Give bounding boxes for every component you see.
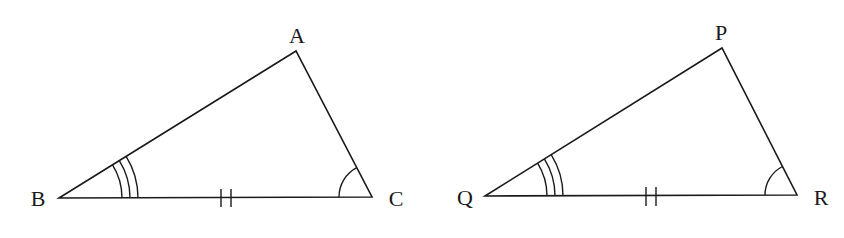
angle-q-arc-1	[538, 163, 547, 196]
angle-r-arc	[765, 167, 782, 196]
vertex-label-c: C	[389, 186, 404, 211]
angle-b-arc-2	[119, 161, 130, 198]
vertex-label-q: Q	[457, 185, 473, 210]
angle-q-arc-3	[551, 155, 563, 196]
angle-b-arc-3	[126, 156, 138, 197]
triangle-abc: ABC	[31, 23, 404, 211]
vertex-label-a: A	[289, 23, 305, 48]
angle-q-arc-2	[544, 159, 555, 196]
vertex-label-b: B	[31, 186, 46, 211]
angle-b-arc-1	[113, 165, 122, 198]
congruent-triangles-diagram: ABC PQR	[0, 0, 844, 238]
vertex-label-r: R	[814, 185, 829, 210]
triangle-pqr: PQR	[457, 20, 829, 210]
triangle-abc-edges	[59, 51, 372, 198]
angle-c-arc	[339, 168, 357, 197]
vertex-label-p: P	[715, 20, 727, 45]
triangle-pqr-edges	[485, 48, 797, 196]
